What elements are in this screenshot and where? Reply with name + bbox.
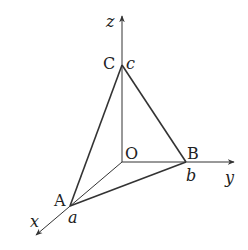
edge-CA [70,65,122,206]
point-B-label: B [187,144,199,163]
diagram-canvas: z y x C c O B b A a [0,0,248,250]
point-B-value: b [186,166,196,185]
point-C-label: C [103,54,115,73]
x-axis-label: x [30,212,39,231]
tetrahedron-diagram: z y x C c O B b A a [0,0,248,250]
z-axis-label: z [105,12,115,31]
point-A-value: a [68,208,78,227]
edge-AB [70,162,186,206]
x-axis [36,162,122,235]
point-C-value: c [126,54,135,73]
origin-label: O [125,144,138,163]
y-axis-label: y [224,168,235,187]
point-A-label: A [53,191,66,210]
